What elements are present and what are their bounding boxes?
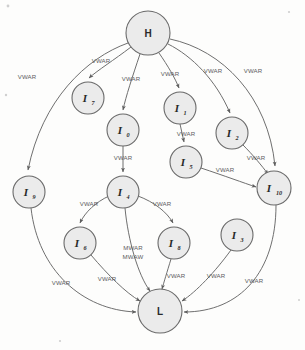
- node-i9-subscript: 9: [32, 193, 35, 200]
- edge-label-h-to-i1: VWAR: [161, 70, 180, 77]
- node-i6-circle[interactable]: [64, 227, 96, 259]
- node-i5-label: I: [180, 156, 186, 168]
- edge-label-h-to-i9: VWAR: [18, 73, 37, 80]
- edge-label-i10-to-l: VWAR: [245, 277, 264, 284]
- node-i10[interactable]: I 10: [257, 171, 291, 205]
- edge-label-i9-to-l: VWAR: [52, 279, 71, 286]
- node-i9[interactable]: I 9: [13, 176, 45, 208]
- node-i10-subscript: 10: [276, 189, 282, 196]
- node-i3-circle[interactable]: [221, 219, 253, 251]
- node-i6[interactable]: I 6: [64, 227, 96, 259]
- edge-h-to-i0: [123, 54, 140, 110]
- edge-label-h-to-i7: VWAR: [92, 57, 111, 64]
- node-i0[interactable]: I 0: [107, 114, 139, 146]
- node-i4-subscript: 4: [125, 193, 129, 200]
- node-i2[interactable]: I 2: [216, 117, 248, 149]
- node-i8-subscript: 8: [177, 244, 180, 251]
- node-i0-circle[interactable]: [107, 114, 139, 146]
- node-l[interactable]: L: [138, 289, 182, 333]
- edge-label-h-to-i2: VWAR: [204, 67, 223, 74]
- node-i2-circle[interactable]: [216, 117, 248, 149]
- edge-i9-to-l: [31, 208, 136, 312]
- diagram-canvas: VWAR VWAR VWAR VWAR VWAR VWAR VWAR VWAR …: [0, 0, 305, 350]
- node-i10-circle[interactable]: [257, 171, 291, 205]
- node-i3-subscript: 3: [239, 236, 243, 243]
- node-i7[interactable]: I 7: [72, 82, 104, 114]
- node-i4[interactable]: I 4: [107, 176, 139, 208]
- edge-layer: [28, 39, 276, 312]
- node-i10-label: I: [266, 182, 272, 194]
- edge-label-i4-to-l-line2: MWAW: [123, 253, 144, 260]
- node-i0-subscript: 0: [126, 131, 129, 138]
- node-i4-label: I: [117, 186, 123, 198]
- edge-label-i0-to-i4: VWAR: [114, 154, 133, 161]
- edge-label-i1-to-i5: VWAR: [177, 130, 196, 137]
- edge-label-h-to-i0: VWAR: [122, 75, 141, 82]
- node-i8-label: I: [168, 237, 174, 249]
- edge-label-i2-to-i10: VWAR: [247, 154, 266, 161]
- node-i6-label: I: [74, 237, 80, 249]
- node-i9-circle[interactable]: [13, 176, 45, 208]
- node-i9-label: I: [23, 186, 29, 198]
- node-i1-label: I: [174, 102, 180, 114]
- node-i2-subscript: 2: [234, 134, 238, 141]
- node-i5-circle[interactable]: [170, 146, 202, 178]
- edge-label-i4-to-l-line1: MWAR: [123, 244, 143, 251]
- node-h[interactable]: H: [126, 11, 170, 55]
- edge-label-i6-to-l: VWAR: [98, 275, 117, 282]
- node-i5[interactable]: I 5: [170, 146, 202, 178]
- node-i5-subscript: 5: [189, 163, 192, 170]
- directed-graph: VWAR VWAR VWAR VWAR VWAR VWAR VWAR VWAR …: [0, 0, 305, 350]
- node-i0-label: I: [117, 124, 123, 136]
- node-i4-circle[interactable]: [107, 176, 139, 208]
- edge-label-layer: VWAR VWAR VWAR VWAR VWAR VWAR VWAR VWAR …: [18, 57, 266, 286]
- node-l-label: L: [157, 306, 163, 317]
- node-h-label: H: [144, 28, 151, 39]
- edge-label-i4-to-i6: VWAR: [80, 200, 99, 207]
- node-i3-label: I: [231, 229, 237, 241]
- node-i1[interactable]: I 1: [164, 92, 196, 124]
- node-i8-circle[interactable]: [158, 227, 190, 259]
- node-i3[interactable]: I 3: [221, 219, 253, 251]
- node-i8[interactable]: I 8: [158, 227, 190, 259]
- edge-label-i8-to-l: VWAR: [167, 272, 186, 279]
- edge-label-i5-to-i10: VWAR: [216, 166, 235, 173]
- node-i1-circle[interactable]: [164, 92, 196, 124]
- node-i7-circle[interactable]: [72, 82, 104, 114]
- edge-label-i4-to-i8: VWAR: [153, 200, 172, 207]
- node-i2-label: I: [226, 127, 232, 139]
- node-i7-label: I: [82, 92, 88, 104]
- node-i1-subscript: 1: [183, 109, 186, 116]
- edge-label-i3-to-l: VWAR: [207, 272, 226, 279]
- edge-label-h-to-i10: VWAR: [244, 67, 263, 74]
